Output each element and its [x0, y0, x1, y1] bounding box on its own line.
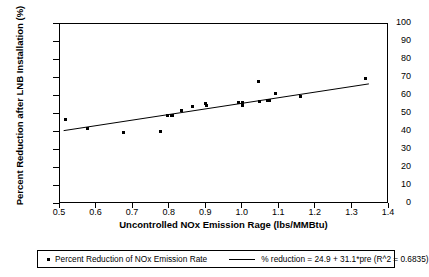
scatter-point — [364, 77, 367, 80]
scatter-point — [257, 80, 260, 83]
plot-area — [59, 23, 388, 203]
scatter-point — [268, 99, 271, 102]
x-axis-tick-label: 0.7 — [117, 207, 147, 217]
scatter-point — [166, 114, 169, 117]
regression-line — [60, 24, 389, 204]
x-axis-tick-label: 0.9 — [190, 207, 220, 217]
scatter-point — [64, 118, 67, 121]
scatter-point — [171, 114, 174, 117]
line-marker-icon — [229, 259, 255, 260]
x-axis-tick-label: 0.8 — [154, 207, 184, 217]
x-axis-tick-label: 1.0 — [227, 207, 257, 217]
x-axis-tick-label: 1.2 — [300, 207, 330, 217]
x-axis-tick-label: 0.6 — [81, 207, 111, 217]
legend-item-regression-label: % reduction = 24.9 + 31.1*pre (R^2 = 0.6… — [261, 255, 428, 264]
scatter-point — [241, 104, 244, 107]
x-axis-tick-label: 1.1 — [263, 207, 293, 217]
data-series-layer — [60, 24, 387, 202]
scatter-point — [180, 109, 183, 112]
x-axis-tick-label: 0.5 — [44, 207, 74, 217]
scatter-point — [205, 104, 208, 107]
legend-item-regression: % reduction = 24.9 + 31.1*pre (R^2 = 0.6… — [229, 255, 428, 264]
legend-item-scatter: Percent Reduction of NOx Emission Rate — [47, 255, 207, 264]
scatter-point — [258, 100, 261, 103]
scatter-point — [159, 130, 162, 133]
scatter-point — [299, 95, 302, 98]
scatter-point — [237, 101, 240, 104]
y-axis-title: Percent Reduction after LNB Installation… — [14, 1, 25, 211]
square-marker-icon — [47, 258, 50, 261]
scatter-point — [191, 105, 194, 108]
x-axis-tick-label: 1.3 — [336, 207, 366, 217]
scatter-point — [86, 127, 89, 130]
x-axis-title: Uncontrolled NOx Emission Rage (lbs/MMBt… — [59, 219, 388, 230]
scatter-point — [122, 131, 125, 134]
legend-item-scatter-label: Percent Reduction of NOx Emission Rate — [55, 255, 207, 264]
chart-legend: Percent Reduction of NOx Emission Rate %… — [37, 250, 395, 268]
x-axis-tick-label: 1.4 — [373, 207, 403, 217]
scatter-point — [274, 92, 277, 95]
